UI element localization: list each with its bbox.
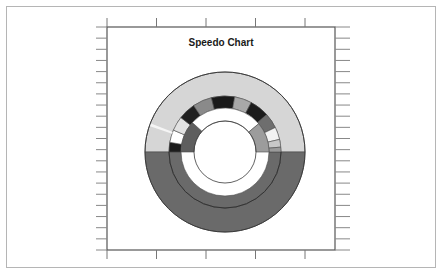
chart-title: Speedo Chart xyxy=(107,37,335,48)
gauge-segment xyxy=(211,96,234,109)
gauge-segment xyxy=(269,147,281,152)
